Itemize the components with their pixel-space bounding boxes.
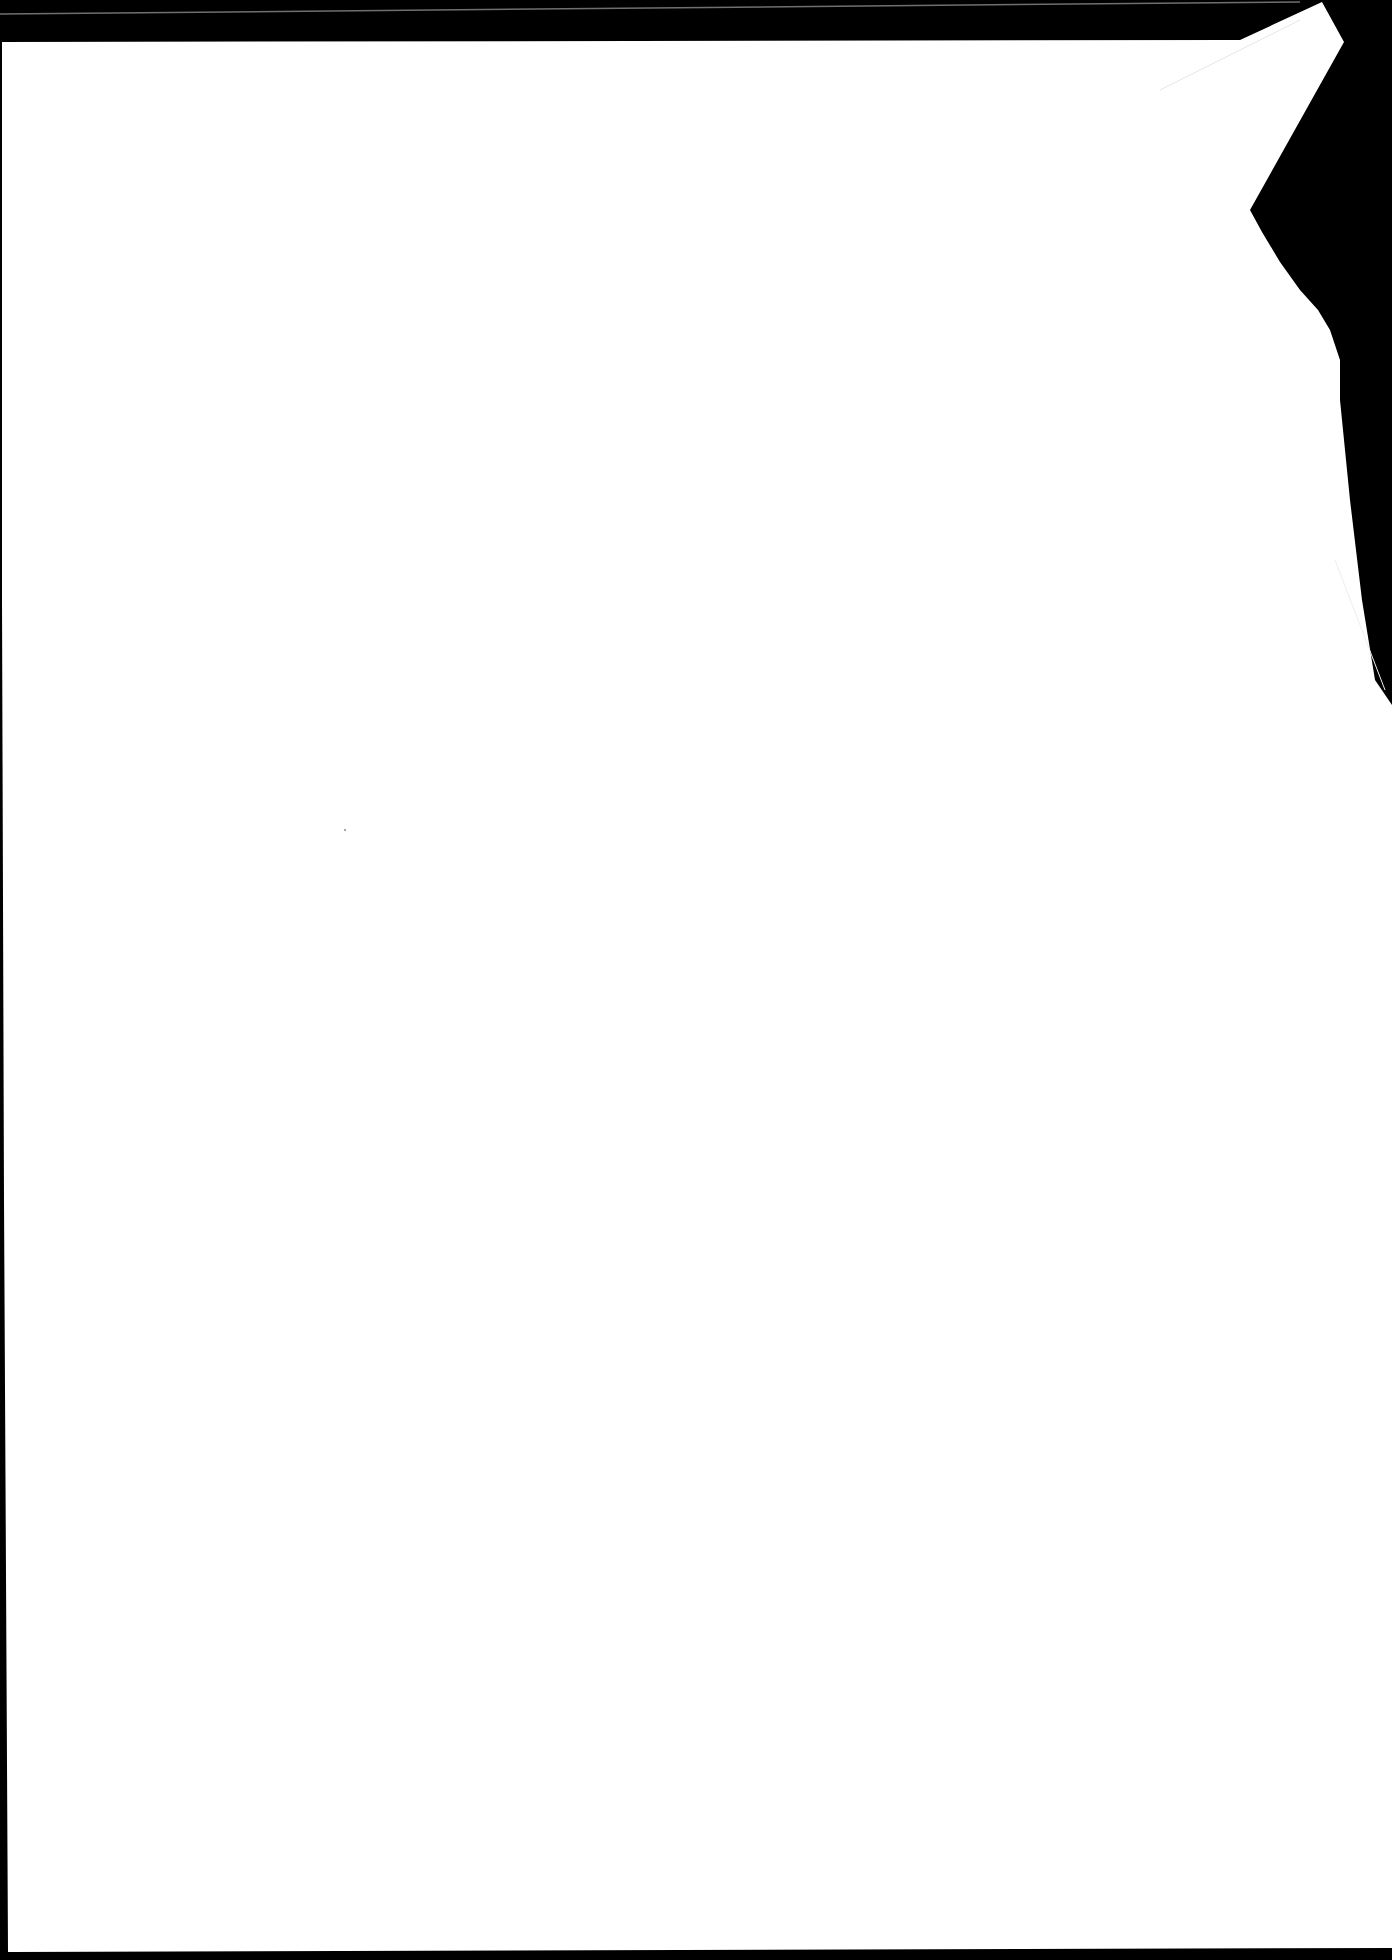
scanned-page [0, 0, 1392, 1960]
dust-speck [344, 829, 346, 831]
paper-sheet [2, 2, 1392, 1952]
page-shape [0, 0, 1392, 1960]
